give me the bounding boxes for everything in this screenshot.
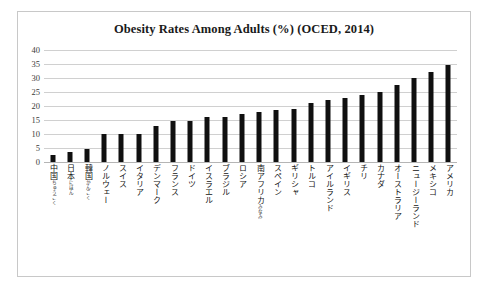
y-axis-tick-label: 10 (32, 130, 41, 139)
bar (153, 126, 158, 162)
bar-slot (285, 50, 302, 162)
bar (119, 134, 124, 162)
bar-slot (337, 50, 354, 162)
bar (429, 72, 434, 162)
bar (446, 65, 451, 162)
bar (85, 149, 90, 162)
bar-slot (423, 50, 440, 162)
bar-slot (268, 50, 285, 162)
x-axis-label: イスラエル (203, 164, 211, 204)
y-axis-tick-label: 40 (32, 46, 41, 55)
bar (291, 109, 296, 162)
x-axis-label: デンマーク (152, 164, 160, 204)
bar (325, 100, 330, 162)
bar (188, 121, 193, 162)
bar (308, 103, 313, 162)
x-axis-label: 韓国かんこく (83, 164, 91, 200)
x-axis-label: ギリシャ (289, 164, 297, 196)
x-axis-label: アイルランド (324, 164, 332, 212)
x-axis-label-ruby: ちゅうごく (51, 180, 56, 205)
bar (50, 155, 55, 162)
x-axis-label: ブラジル (221, 164, 229, 196)
x-axis-label: ノルウェー (100, 164, 108, 204)
bar-slot (405, 50, 422, 162)
x-axis-label: イタリア (135, 164, 143, 196)
bar-slot (388, 50, 405, 162)
bar (67, 152, 72, 162)
y-axis-tick-label: 15 (32, 116, 41, 125)
chart-frame: Obesity Rates Among Adults (%) (OCED, 20… (17, 11, 471, 277)
bar (411, 78, 416, 162)
x-axis-label: カナダ (375, 164, 383, 188)
bar (394, 85, 399, 162)
bar-slot (182, 50, 199, 162)
bar-slot (147, 50, 164, 162)
bar-slot (113, 50, 130, 162)
x-axis-label: フランス (169, 164, 177, 196)
bar-slot (371, 50, 388, 162)
bar (274, 110, 279, 162)
y-axis-tick-label: 25 (32, 88, 41, 97)
x-axis-label-ruby: にほん (68, 180, 73, 195)
gridline (44, 162, 457, 163)
bar (102, 134, 107, 162)
bar-slot (78, 50, 95, 162)
bar (171, 121, 176, 162)
x-axis-label: アメリカ (444, 164, 452, 196)
x-axis-labels: 中国ちゅうごく日本にほん韓国かんこくノルウェースイスイタリアデンマークフランスド… (44, 164, 457, 276)
x-axis-label: イギリス (341, 164, 349, 196)
bar (257, 112, 262, 162)
x-axis-label: メキシコ (427, 164, 435, 196)
bar-series (44, 50, 457, 162)
bar-slot (251, 50, 268, 162)
bar-slot (216, 50, 233, 162)
bar (343, 98, 348, 162)
y-axis-tick-label: 20 (32, 102, 41, 111)
x-axis-label: トルコ (307, 164, 315, 188)
bar (360, 95, 365, 162)
x-axis-label: ロシア (238, 164, 246, 188)
bar-slot (61, 50, 78, 162)
x-axis-label-ruby: かんこく (85, 180, 90, 200)
x-axis-label: オーストラリア (393, 164, 401, 220)
bar-slot (44, 50, 61, 162)
bar-slot (164, 50, 181, 162)
x-axis-label: 南アフリカみなみ (255, 164, 263, 219)
x-axis-label: スイス (117, 164, 125, 188)
bar-slot (440, 50, 457, 162)
bar-slot (354, 50, 371, 162)
bar (377, 92, 382, 162)
bar-slot (319, 50, 336, 162)
x-axis-label: 中国ちゅうごく (49, 164, 57, 205)
plot-area: 0510152025303540 (44, 50, 457, 162)
bar (205, 117, 210, 162)
x-axis-label: チリ (358, 164, 366, 180)
x-axis-label: ニュージーランド (410, 164, 418, 228)
y-axis-tick-label: 30 (32, 74, 41, 83)
bar-slot (199, 50, 216, 162)
bar (222, 117, 227, 162)
bar (239, 114, 244, 162)
bar-slot (233, 50, 250, 162)
bar (136, 134, 141, 162)
y-axis-tick-label: 0 (36, 158, 40, 167)
chart-title: Obesity Rates Among Adults (%) (OCED, 20… (18, 22, 470, 37)
y-axis-tick-label: 5 (36, 144, 40, 153)
bar-slot (130, 50, 147, 162)
x-axis-label-ruby: みなみ (257, 204, 262, 219)
bar-slot (302, 50, 319, 162)
x-axis-label: 日本にほん (66, 164, 74, 195)
x-axis-label: スペイン (272, 164, 280, 196)
y-axis-tick-label: 35 (32, 60, 41, 69)
x-axis-label: ドイツ (186, 164, 194, 188)
bar-slot (96, 50, 113, 162)
